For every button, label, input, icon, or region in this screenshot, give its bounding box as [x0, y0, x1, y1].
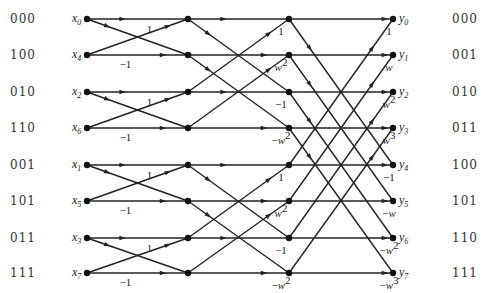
intermediate-node — [185, 16, 191, 22]
output-label: y3 — [398, 120, 408, 136]
output-bit-index: 010 — [452, 85, 478, 99]
input-bit-index: 101 — [10, 194, 36, 208]
input-label: x6 — [71, 120, 81, 136]
input-bit-index: 000 — [10, 12, 36, 26]
output-node — [390, 52, 396, 58]
output-label: y5 — [398, 193, 408, 209]
weight-label: 1 — [147, 23, 153, 35]
output-bit-index: 000 — [452, 12, 478, 26]
arrow-icon — [164, 96, 172, 102]
arrow-icon — [119, 236, 126, 240]
intermediate-node — [185, 270, 191, 276]
input-label: x0 — [71, 11, 81, 27]
input-bit-index: 111 — [10, 266, 36, 280]
input-label: x5 — [71, 193, 81, 209]
weight-label: −1 — [275, 98, 287, 110]
weight-label: −w2 — [271, 129, 290, 146]
input-node — [84, 162, 90, 168]
arrow-icon — [160, 271, 167, 275]
weight-label: −1 — [120, 131, 132, 143]
output-bit-index: 001 — [452, 48, 478, 62]
input-label: x1 — [71, 157, 81, 173]
intermediate-node — [286, 162, 292, 168]
input-bit-index: 110 — [10, 121, 36, 135]
intermediate-node — [185, 52, 191, 58]
arrow-icon — [220, 163, 227, 167]
input-node — [84, 198, 90, 204]
intermediate-node — [286, 89, 292, 95]
arrow-icon — [382, 90, 389, 94]
output-bit-index: 101 — [452, 194, 478, 208]
arrow-icon — [382, 163, 389, 167]
input-bit-index: 011 — [10, 231, 36, 245]
weight-label: −1 — [120, 276, 132, 288]
arrow-icon — [261, 271, 268, 275]
arrow-icon — [104, 23, 112, 29]
input-node — [84, 270, 90, 276]
arrow-icon — [261, 53, 268, 57]
output-label: y6 — [398, 230, 408, 246]
intermediate-node — [185, 89, 191, 95]
arrow-icon — [104, 242, 112, 248]
input-bit-index: 001 — [10, 158, 36, 172]
weight-label: w — [385, 61, 393, 73]
weight-label: 1 — [147, 242, 153, 254]
output-label: y2 — [398, 84, 408, 100]
arrow-icon — [382, 53, 389, 57]
weight-label: w2 — [383, 93, 396, 110]
input-node — [84, 16, 90, 22]
input-node — [84, 52, 90, 58]
output-bit-index: 111 — [452, 266, 478, 280]
weight-label: −1 — [275, 244, 287, 256]
butterfly-labels: 1−11−11−11−11w2−1−w21w2−1−w21ww2w3−1−w−w… — [10, 11, 478, 291]
arrow-icon — [104, 169, 112, 175]
intermediate-node — [185, 162, 191, 168]
intermediate-node — [185, 235, 191, 241]
output-label: y1 — [398, 47, 408, 63]
weight-label: 1 — [386, 25, 392, 37]
output-bit-index: 011 — [452, 121, 478, 135]
arrow-icon — [220, 236, 227, 240]
output-label: y4 — [398, 157, 408, 173]
arrow-icon — [164, 242, 172, 248]
weight-label: −w3 — [379, 274, 399, 291]
weight-label: −1 — [120, 58, 132, 70]
weight-label: w2 — [275, 56, 288, 73]
arrow-icon — [119, 17, 126, 21]
arrow-icon — [261, 126, 268, 130]
weight-label: w3 — [383, 129, 396, 146]
weight-label: −w2 — [379, 239, 398, 256]
weight-label: −1 — [383, 171, 395, 183]
output-label: y7 — [398, 265, 409, 281]
output-node — [390, 162, 396, 168]
weight-label: 1 — [147, 96, 153, 108]
intermediate-node — [286, 16, 292, 22]
weight-label: 1 — [278, 171, 284, 183]
weight-label: −w2 — [271, 274, 290, 291]
input-node — [84, 125, 90, 131]
output-node — [390, 16, 396, 22]
arrow-icon — [164, 169, 172, 175]
intermediate-node — [185, 198, 191, 204]
intermediate-node — [185, 125, 191, 131]
arrow-icon — [382, 271, 389, 275]
input-node — [84, 235, 90, 241]
arrow-icon — [119, 90, 126, 94]
arrow-icon — [164, 23, 172, 29]
arrow-icon — [160, 53, 167, 57]
arrow-icon — [160, 199, 167, 203]
weight-label: 1 — [147, 169, 153, 181]
arrow-icon — [220, 90, 227, 94]
output-bit-index: 110 — [452, 231, 478, 245]
output-bit-index: 100 — [452, 158, 478, 172]
input-bit-index: 100 — [10, 48, 36, 62]
input-bit-index: 010 — [10, 85, 36, 99]
input-label: x7 — [71, 265, 82, 281]
output-node — [390, 198, 396, 204]
input-label: x4 — [71, 47, 81, 63]
arrow-icon — [382, 199, 389, 203]
arrow-icon — [160, 126, 167, 130]
input-label: x2 — [71, 84, 81, 100]
arrow-icon — [382, 17, 389, 21]
arrow-icon — [104, 96, 112, 102]
